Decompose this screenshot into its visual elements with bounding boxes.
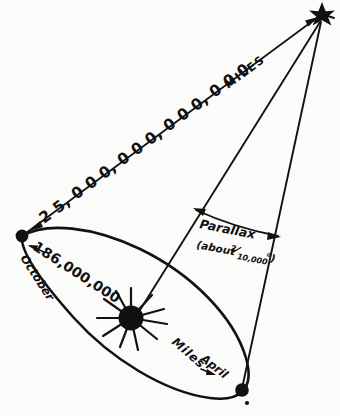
parallax-diagram: 2 5, 0 0 0, 0 0 0, 0 0 0, 0 0 0 MILES Pa…: [0, 0, 340, 416]
sight-line-sun: [140, 22, 320, 310]
parallax-title-label: Parallax: [198, 216, 257, 242]
parallax-label-group: Parallax (about 2 10,000 °): [195, 216, 277, 268]
diagram-canvas: 2 5, 0 0 0, 0 0 0, 0 0 0, 0 0 0 MILES Pa…: [0, 0, 340, 416]
earth-april: [235, 383, 249, 405]
sight-line-april: [243, 22, 321, 384]
earth-october: [16, 230, 29, 243]
parallax-fraction-denominator: 10,000: [236, 252, 268, 267]
distance-to-star-label: 2 5, 0 0 0, 0 0 0, 0 0 0, 0 0 0: [36, 60, 253, 227]
parallax-note-close: °): [265, 251, 277, 265]
distance-label-group: 2 5, 0 0 0, 0 0 0, 0 0 0, 0 0 0 MILES: [36, 52, 268, 227]
orbit-units-label: Miles: [169, 335, 208, 371]
